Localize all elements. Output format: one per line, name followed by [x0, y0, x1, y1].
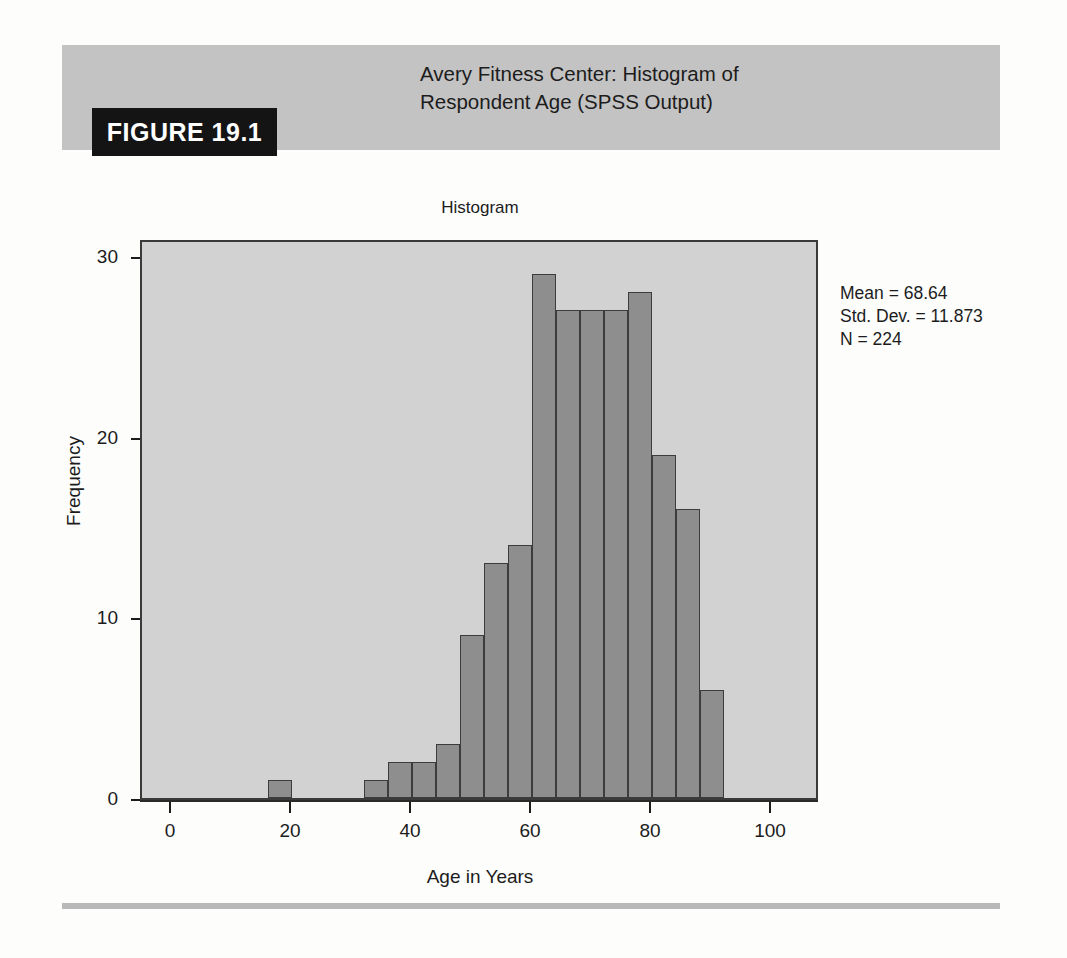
stat-n: N = 224 — [840, 328, 983, 351]
plot-area — [140, 240, 818, 800]
footer-rule — [62, 903, 1000, 909]
x-axis-title: Age in Years — [380, 866, 580, 888]
y-tick-mark — [131, 799, 140, 801]
x-tick-mark — [169, 802, 171, 813]
histogram-bar — [364, 780, 388, 798]
histogram-chart: Histogram 0102030 Frequency 020406080100… — [0, 0, 1067, 958]
x-tick-mark — [529, 802, 531, 813]
histogram-bar — [580, 310, 604, 798]
y-axis-title: Frequency — [63, 401, 85, 561]
figure-page: FIGURE 19.1 Avery Fitness Center: Histog… — [0, 0, 1067, 958]
x-tick-label: 20 — [260, 820, 320, 842]
y-tick-label: 30 — [58, 246, 118, 268]
histogram-bar — [700, 690, 724, 798]
x-tick-mark — [289, 802, 291, 813]
stat-std-dev: Std. Dev. = 11.873 — [840, 305, 983, 328]
histogram-bar — [268, 780, 292, 798]
histogram-bar — [604, 310, 628, 798]
x-tick-label: 40 — [380, 820, 440, 842]
histogram-bar — [508, 545, 532, 798]
x-tick-mark — [769, 802, 771, 813]
x-tick-label: 0 — [140, 820, 200, 842]
stat-mean: Mean = 68.64 — [840, 282, 983, 305]
histogram-bar — [628, 292, 652, 798]
histogram-bar — [388, 762, 412, 798]
x-tick-mark — [649, 802, 651, 813]
y-tick-mark — [131, 618, 140, 620]
x-tick-mark — [409, 802, 411, 813]
histogram-bar — [436, 744, 460, 798]
histogram-bar — [676, 509, 700, 798]
chart-title: Histogram — [380, 198, 580, 218]
bars-layer — [142, 242, 816, 798]
x-axis-line — [140, 800, 818, 802]
histogram-bar — [532, 274, 556, 798]
x-tick-label: 60 — [500, 820, 560, 842]
y-tick-mark — [131, 438, 140, 440]
histogram-bar — [412, 762, 436, 798]
y-tick-mark — [131, 257, 140, 259]
histogram-bar — [652, 455, 676, 798]
x-tick-label: 80 — [620, 820, 680, 842]
histogram-bar — [556, 310, 580, 798]
histogram-bar — [460, 635, 484, 798]
statistics-annotation: Mean = 68.64 Std. Dev. = 11.873 N = 224 — [840, 282, 983, 351]
y-tick-label: 10 — [58, 607, 118, 629]
histogram-bar — [484, 563, 508, 798]
x-tick-label: 100 — [740, 820, 800, 842]
y-tick-label: 0 — [58, 788, 118, 810]
